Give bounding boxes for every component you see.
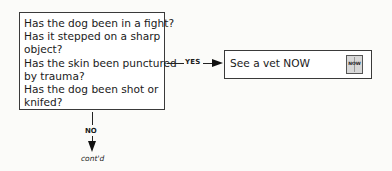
yes-label: YES: [185, 58, 201, 66]
question-line: Has the dog been shot or: [24, 83, 160, 96]
question-box: Has the dog been in a fight? Has it step…: [19, 12, 165, 110]
yes-connector: [167, 63, 184, 64]
question-line: Has the skin been punctured: [24, 57, 160, 70]
arrow-down-icon: [88, 141, 96, 152]
question-line: knifed?: [24, 96, 160, 109]
arrow-right-icon: [212, 59, 223, 67]
now-icon: NOW: [346, 55, 363, 74]
question-line: Has it stepped on a sharp: [24, 30, 160, 43]
continued-label: cont'd: [81, 154, 104, 163]
action-box: See a vet NOW NOW: [224, 50, 372, 79]
now-icon-text: NOW: [347, 61, 362, 66]
question-line: by trauma?: [24, 70, 160, 83]
action-text: See a vet NOW: [230, 57, 310, 69]
question-line: object?: [24, 43, 160, 56]
no-label: NO: [85, 127, 97, 135]
no-connector: [92, 112, 93, 125]
question-line: Has the dog been in a fight?: [24, 17, 160, 30]
